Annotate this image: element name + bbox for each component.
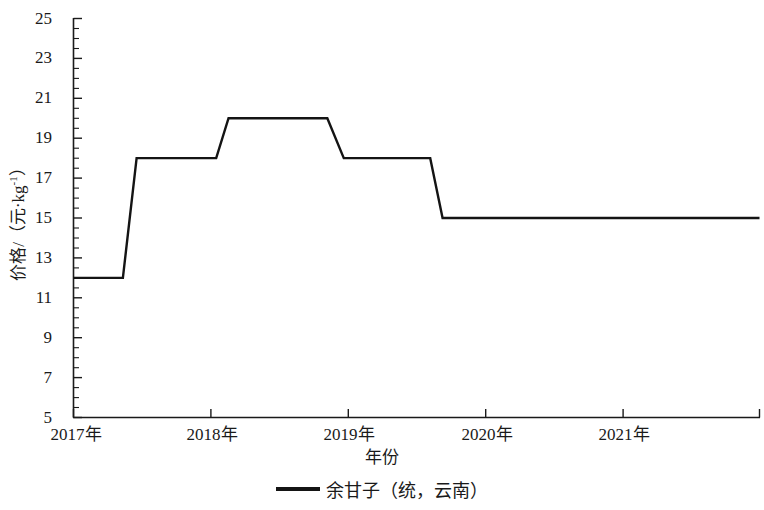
- y-tick-label: 23: [35, 48, 52, 68]
- y-tick-label: 17: [35, 168, 52, 188]
- y-tick-label: 7: [44, 368, 53, 388]
- y-tick-label: 13: [35, 248, 52, 268]
- chart-legend: 余甘子（统，云南）: [0, 476, 764, 502]
- y-axis-title-suffix: ）: [9, 159, 28, 176]
- x-tick-label: 2021年: [599, 420, 650, 445]
- y-tick-label: 11: [36, 288, 52, 308]
- y-axis-title-exponent: -1: [7, 176, 19, 185]
- x-tick-label: 2017年: [51, 420, 102, 445]
- y-tick-label: 9: [44, 328, 53, 348]
- y-tick-label: 25: [35, 9, 52, 29]
- x-axis-title: 年份: [0, 443, 764, 468]
- legend-label: 余甘子（统，云南）: [326, 476, 488, 502]
- y-axis-title-prefix: 价格/（元·kg: [9, 185, 28, 280]
- chart-figure: 5 7 9 11 13 15 17 19 21 23 25 2017年 2018…: [0, 0, 764, 510]
- x-tick-label: 2020年: [462, 420, 513, 445]
- legend-line-swatch-icon: [276, 487, 320, 491]
- y-tick-label: 19: [35, 128, 52, 148]
- y-tick-label: 21: [35, 88, 52, 108]
- y-tick-label: 15: [35, 208, 52, 228]
- series-line-yuganzi: [74, 118, 760, 278]
- x-tick-label: 2018年: [187, 420, 238, 445]
- x-tick-label: 2019年: [324, 420, 375, 445]
- x-axis-major-ticks: [74, 409, 760, 418]
- y-axis-title: 价格/（元·kg-1）: [2, 95, 30, 345]
